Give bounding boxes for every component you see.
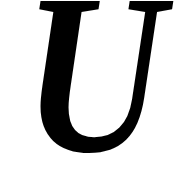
letter-u-glyph: U [20, 0, 168, 189]
glyph-canvas: U [0, 0, 180, 189]
